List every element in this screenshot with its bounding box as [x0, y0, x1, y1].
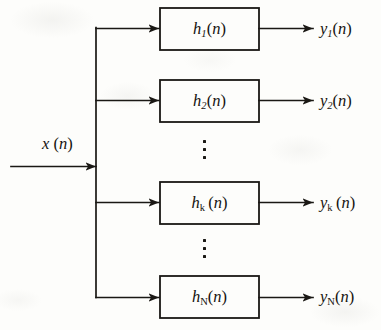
output-y2-label: y2(n)	[320, 93, 352, 110]
block-hN-sub: N	[200, 296, 208, 307]
block-h2-sub: 2	[201, 100, 206, 111]
output-yk-sub: k	[327, 202, 332, 213]
figure-canvas: x (n) h1(n) h2(n) hk (n) hN(n) y1(n) y2(…	[0, 0, 381, 330]
block-hN-var: h	[192, 287, 200, 306]
output-y1-sub: 1	[327, 28, 332, 39]
block-h1-label: h1(n)	[160, 21, 259, 38]
block-hN-label: hN(n)	[160, 289, 259, 306]
output-yN-sub: N	[327, 296, 335, 307]
block-hk-label: hk (n)	[160, 195, 259, 212]
ellipsis-lower-icon	[202, 239, 207, 258]
output-yk-label: yk (n)	[320, 195, 355, 212]
block-hk-var: h	[191, 193, 199, 212]
output-yN-label: yN(n)	[320, 289, 354, 306]
block-h2-label: h2(n)	[160, 93, 259, 110]
input-label: x (n)	[42, 136, 73, 153]
ellipsis-upper-icon	[202, 140, 207, 159]
block-hk-sub: k	[200, 202, 205, 213]
output-y2-sub: 2	[327, 100, 332, 111]
output-y1-label: y1(n)	[320, 21, 352, 38]
input-label-arg: (n)	[53, 134, 72, 153]
block-diagram-svg	[0, 0, 381, 330]
input-label-arg-n: n	[59, 134, 67, 153]
block-h1-sub: 1	[201, 28, 206, 39]
